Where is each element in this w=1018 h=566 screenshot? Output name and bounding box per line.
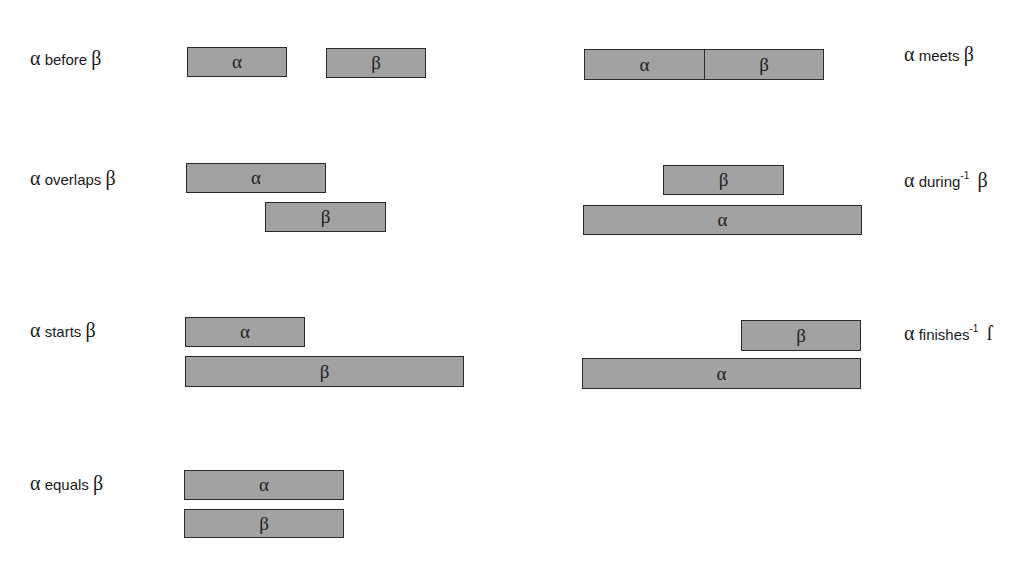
relation-label-finishes-inverse: α finishes-1 ſ [904, 321, 992, 345]
relation-label-during-inverse: α during-1 β [904, 168, 988, 192]
relation-name: starts [40, 323, 85, 340]
interval-bar-alpha: α [582, 358, 861, 389]
relation-label-equals: α equals β [30, 473, 103, 495]
relation-label-before: α before β [30, 48, 102, 70]
alpha-symbol: α [904, 169, 914, 191]
beta-symbol: β [964, 43, 974, 65]
alpha-symbol: α [904, 322, 914, 344]
interval-bar-alpha: α [187, 47, 287, 77]
interval-bar-alpha: α [584, 49, 705, 80]
relation-name: during [914, 173, 960, 190]
interval-bar-alpha: α [184, 470, 344, 500]
relation-label-meets: α meets β [904, 44, 974, 66]
relation-label-starts: α starts β [30, 320, 96, 342]
alpha-symbol: α [30, 167, 40, 189]
alpha-symbol: α [30, 319, 40, 341]
beta-symbol: β [106, 167, 116, 189]
interval-bar-beta: β [185, 356, 464, 387]
beta-symbol: ſ [987, 322, 993, 344]
interval-bar-beta: β [704, 49, 824, 80]
beta-symbol: β [978, 169, 988, 191]
alpha-symbol: α [30, 47, 40, 69]
interval-bar-alpha: α [185, 317, 305, 347]
interval-bar-beta: β [741, 320, 861, 351]
relation-name: overlaps [40, 171, 105, 188]
beta-symbol: β [91, 47, 101, 69]
interval-bar-beta: β [326, 48, 426, 78]
interval-bar-beta: β [265, 202, 386, 232]
relation-label-overlaps: α overlaps β [30, 168, 116, 190]
alpha-symbol: α [30, 472, 40, 494]
interval-bar-beta: β [184, 509, 344, 538]
interval-bar-beta: β [663, 165, 784, 195]
inverse-superscript: -1 [960, 170, 969, 181]
beta-symbol: β [86, 319, 96, 341]
relation-name: meets [914, 47, 963, 64]
interval-bar-alpha: α [186, 163, 326, 193]
beta-symbol: β [93, 472, 103, 494]
relation-name: before [40, 51, 91, 68]
relation-name: equals [40, 476, 93, 493]
interval-bar-alpha: α [583, 205, 862, 235]
alpha-symbol: α [904, 43, 914, 65]
inverse-superscript: -1 [970, 323, 979, 334]
relation-name: finishes [914, 326, 969, 343]
